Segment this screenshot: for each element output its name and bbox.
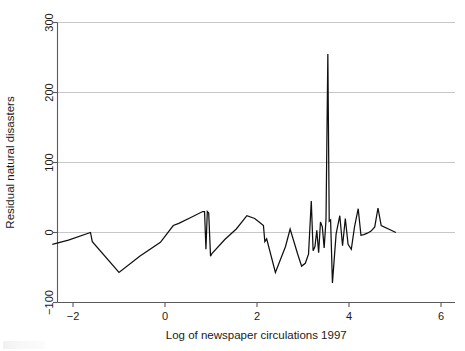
x-tick-label: 4 — [346, 310, 352, 322]
x-tick-label: 0 — [162, 310, 168, 322]
y-tick-label: 0 — [43, 229, 55, 235]
y-tick-label: 300 — [43, 13, 55, 31]
chart-svg: −1000100200300 −20246 Log of newspaper c… — [0, 0, 465, 351]
x-tick-label: −2 — [67, 310, 80, 322]
y-tick-label: 100 — [43, 153, 55, 171]
x-tick-label: 2 — [254, 310, 260, 322]
x-tick-label: 6 — [438, 310, 444, 322]
chart-background — [0, 0, 465, 351]
y-axis-title: Residual natural disasters — [4, 96, 16, 229]
y-tick-label: −100 — [43, 290, 55, 315]
page-artifact — [3, 341, 45, 349]
y-tick-label: 200 — [43, 83, 55, 101]
residual-disasters-chart: −1000100200300 −20246 Log of newspaper c… — [0, 0, 465, 351]
x-axis-title: Log of newspaper circulations 1997 — [166, 329, 347, 341]
